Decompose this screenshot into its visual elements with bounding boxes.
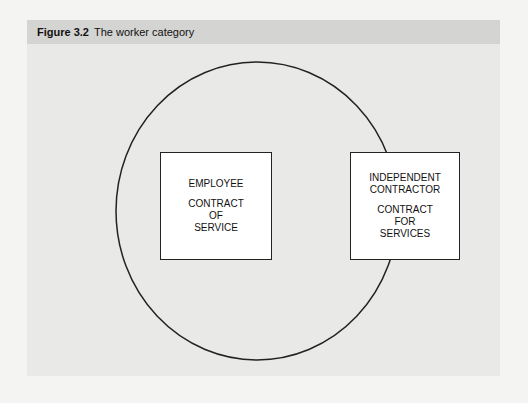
employee-contract-line-1: CONTRACT [188,198,244,210]
contractor-heading-line-1: INDEPENDENT [369,172,441,184]
contractor-contract-line-3: SERVICES [380,228,430,240]
contractor-contract-line-1: CONTRACT [377,204,433,216]
employee-contract-line-2: OF [209,210,223,222]
employee-contract-line-3: SERVICE [194,222,238,234]
independent-contractor-box: INDEPENDENT CONTRACTOR CONTRACT FOR SERV… [350,152,460,260]
contractor-contract-line-2: FOR [394,216,415,228]
employee-box: EMPLOYEE CONTRACT OF SERVICE [160,152,272,260]
contractor-heading-line-2: CONTRACTOR [370,184,440,196]
employee-heading: EMPLOYEE [188,178,243,190]
